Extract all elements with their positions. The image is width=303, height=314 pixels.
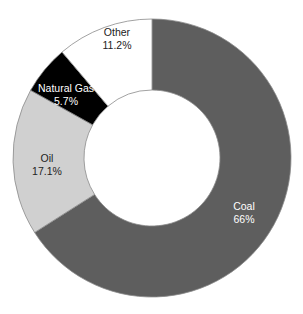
- label-value: 11.2%: [103, 39, 132, 51]
- label-value: 17.1%: [32, 165, 62, 177]
- label-coal: Coal66%: [233, 200, 255, 225]
- donut-slices: [13, 19, 291, 297]
- donut-chart-svg: Coal66%Oil17.1%Natural Gas5.7%Other11.2%: [0, 0, 303, 314]
- label-category: Oil: [41, 152, 54, 164]
- label-value: 5.7%: [54, 95, 78, 107]
- label-category: Natural Gas: [38, 82, 94, 94]
- label-other: Other11.2%: [103, 26, 132, 51]
- label-category: Other: [104, 26, 131, 38]
- donut-chart: Coal66%Oil17.1%Natural Gas5.7%Other11.2%: [0, 0, 303, 314]
- label-value: 66%: [233, 213, 254, 225]
- label-category: Coal: [233, 200, 255, 212]
